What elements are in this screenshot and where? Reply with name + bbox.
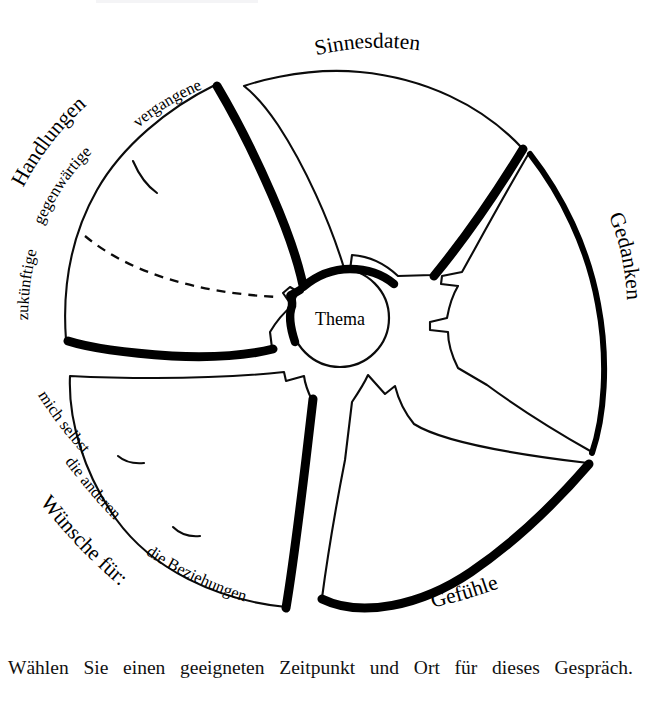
caption-text: Wählen Sie einen geeigneten Zeitpunkt un… (8, 655, 633, 681)
center-label-thema: Thema (315, 309, 365, 329)
sublabel-zukuenftige: zukünftige (13, 247, 41, 320)
sublabel-zukuenftige-text: zukünftige (13, 247, 41, 320)
wheel-diagram-svg: Sinnesdaten Gedanken Gefühle Wünsche für… (0, 0, 667, 645)
petal-handlungen[interactable] (65, 85, 305, 357)
awareness-wheel-figure: Sinnesdaten Gedanken Gefühle Wünsche für… (0, 0, 667, 645)
label-handlungen-text: Handlungen (6, 91, 90, 190)
label-gedanken-text: Gedanken (604, 209, 646, 301)
petal-handlungen-body (65, 85, 305, 356)
label-gedanken: Gedanken (604, 209, 646, 301)
label-sinnesdaten: Sinnesdaten (312, 29, 422, 61)
label-handlungen: Handlungen (6, 91, 90, 190)
label-sinnesdaten-text: Sinnesdaten (312, 29, 422, 61)
